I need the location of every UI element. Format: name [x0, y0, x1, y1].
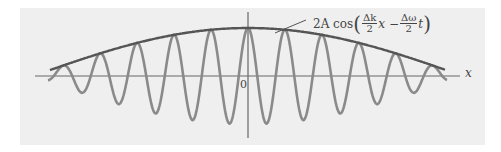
right-paren: ) — [423, 14, 431, 34]
envelope-formula: 2A cos ( Δk 2 x − Δω 2 t ) — [313, 13, 431, 34]
x-axis-label: x — [465, 66, 472, 80]
origin-label: 0 — [240, 78, 247, 91]
formula-mid: x − — [378, 17, 399, 31]
formula-prefix: 2A cos — [313, 17, 353, 31]
fraction-domega: Δω 2 — [400, 13, 417, 34]
frac-denominator: 2 — [405, 24, 411, 34]
left-paren: ( — [353, 14, 361, 34]
frac-denominator: 2 — [366, 24, 372, 34]
fraction-dk: Δk 2 — [362, 13, 377, 34]
